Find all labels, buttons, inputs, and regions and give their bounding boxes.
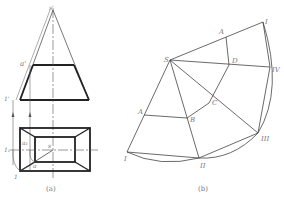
label-A-top: A bbox=[218, 28, 224, 36]
arrow-up-icon bbox=[29, 112, 32, 117]
label-III: III bbox=[260, 135, 270, 143]
ray-S-I-bottom bbox=[127, 60, 170, 152]
label-I-bottom: I bbox=[123, 155, 127, 163]
label-I-top: I bbox=[264, 18, 268, 26]
label-a-sub-1: a₁ bbox=[22, 139, 28, 146]
ray-S-III bbox=[170, 60, 258, 133]
label-a-prime: a' bbox=[20, 60, 26, 68]
edge-III-II bbox=[199, 133, 258, 158]
top-view-corner-line bbox=[75, 162, 90, 171]
top-view-corner-line bbox=[75, 128, 90, 137]
label-a: a bbox=[33, 162, 37, 169]
edge-A-D bbox=[226, 37, 229, 65]
label-D: D bbox=[231, 57, 238, 65]
panel-b-labels: S A D C B A I IV III II I (b) bbox=[123, 18, 281, 193]
panel-b bbox=[127, 22, 272, 162]
label-1-prime: 1' bbox=[4, 95, 10, 102]
label-C: C bbox=[212, 99, 218, 107]
true-length-line bbox=[16, 10, 50, 100]
ray-S-II bbox=[170, 60, 199, 158]
label-1: 1 bbox=[14, 173, 18, 180]
edge-D-C bbox=[209, 65, 229, 103]
top-view-corner-line bbox=[20, 128, 35, 137]
label-s-prime: s' bbox=[49, 4, 54, 11]
label-IV: IV bbox=[271, 66, 281, 74]
arrow-up-icon bbox=[12, 112, 15, 117]
ray-S-I bbox=[170, 22, 263, 60]
panel-a: s' a' 1' 1₁ a₁ s a 1 (a) bbox=[4, 4, 98, 193]
edge-II-I bbox=[127, 152, 199, 158]
caption-a: (a) bbox=[46, 185, 56, 193]
label-A-left: A bbox=[137, 108, 143, 116]
label-1-sub-1: 1₁ bbox=[4, 146, 10, 153]
diagram-canvas: s' a' 1' 1₁ a₁ s a 1 (a) S A D C B A bbox=[0, 0, 284, 205]
outer-arc bbox=[127, 22, 272, 162]
label-II: II bbox=[199, 162, 206, 170]
edge-IV-III bbox=[258, 67, 270, 133]
top-view-inner-rect bbox=[35, 137, 75, 162]
label-S: S bbox=[164, 56, 169, 64]
frustum-left-edge bbox=[20, 65, 33, 100]
ray-S-IV bbox=[170, 60, 270, 67]
label-s: s bbox=[48, 142, 51, 149]
rotation-arc bbox=[13, 150, 20, 171]
edge-B-A bbox=[144, 115, 187, 118]
caption-b: (b) bbox=[198, 185, 208, 193]
frustum-right-edge bbox=[74, 65, 89, 100]
development-diagram: s' a' 1' 1₁ a₁ s a 1 (a) S A D C B A bbox=[0, 0, 284, 205]
label-B: B bbox=[189, 116, 195, 124]
